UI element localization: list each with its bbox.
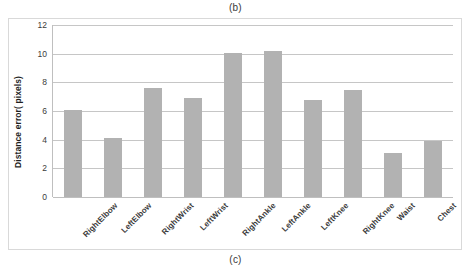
plot-area [52,25,453,197]
figure-caption-top: (b) [0,1,471,15]
x-tick-slot: RightElbow [52,199,92,249]
y-axis-title: Distance error( pixels) [11,37,25,207]
x-tick-slot: LeftAnkle [252,199,292,249]
x-tick-slot: LeftWrist [172,199,212,249]
x-tick-slot: RightWrist [132,199,172,249]
bar-series [53,25,453,197]
y-axis-tick-label: 6 [42,107,47,116]
y-axis-title-text: Distance error( pixels) [13,76,23,168]
figure-caption-bottom: (c) [0,252,471,268]
bar[interactable] [264,51,282,197]
bar-slot [293,25,333,197]
bar-slot [93,25,133,197]
x-axis-tick-label: Chest [436,201,458,223]
bar[interactable] [344,90,362,198]
y-axis-tick-label: 2 [42,164,47,173]
bar-slot [373,25,413,197]
y-axis-tick-labels: 024681012 [25,25,49,197]
bar-chart: Distance error( pixels) 024681012 RightE… [8,18,462,250]
y-axis-tick-label: 4 [42,135,47,144]
bar[interactable] [104,138,122,197]
bar[interactable] [424,141,442,197]
bar-slot [133,25,173,197]
y-axis-tick-label: 8 [42,78,47,87]
x-tick-slot: RightKnee [333,199,373,249]
y-axis-tick-label: 12 [38,21,47,30]
x-tick-slot: LeftElbow [92,199,132,249]
bar-slot [173,25,213,197]
y-axis-tick-label: 10 [38,49,47,58]
bar[interactable] [384,153,402,197]
x-axis-tick-labels: RightElbowLeftElbowRightWristLeftWristRi… [52,199,453,249]
bar[interactable] [144,88,162,197]
bar[interactable] [304,100,322,197]
bar-slot [253,25,293,197]
bar-slot [333,25,373,197]
bar[interactable] [184,98,202,197]
x-tick-slot: RightAnkle [212,199,252,249]
x-tick-slot: LeftKnee [293,199,333,249]
axis-baseline [53,197,453,198]
y-axis-tick-label: 0 [42,193,47,202]
bar-slot [53,25,93,197]
bar[interactable] [224,53,242,197]
x-tick-slot: Waist [373,199,413,249]
bar-slot [413,25,453,197]
bar-slot [213,25,253,197]
bar[interactable] [64,110,82,197]
x-tick-slot: Chest [413,199,453,249]
